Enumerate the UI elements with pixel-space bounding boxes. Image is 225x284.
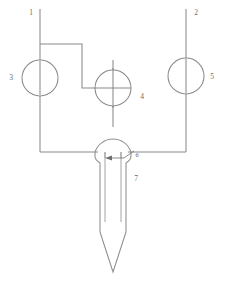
callout-label-4: 4 (140, 92, 144, 101)
nozzle-bulb-dome (95, 139, 131, 152)
callout-label-1: 1 (29, 8, 33, 17)
branch-line-1-to-4 (40, 44, 95, 88)
dimension-6-arrowhead (105, 155, 112, 160)
nozzle-right-wall (126, 152, 131, 232)
callout-label-2: 2 (194, 8, 198, 17)
callout-label-5: 5 (210, 72, 214, 81)
nozzle-tip-taper (100, 232, 126, 272)
callout-label-3: 3 (9, 73, 13, 82)
schematic-drawing: 1 2 3 4 5 6 7 (0, 0, 225, 284)
callout-label-7: 7 (134, 174, 138, 183)
nozzle-left-wall (95, 152, 100, 232)
diagram-canvas: 1 2 3 4 5 6 7 (0, 0, 225, 284)
